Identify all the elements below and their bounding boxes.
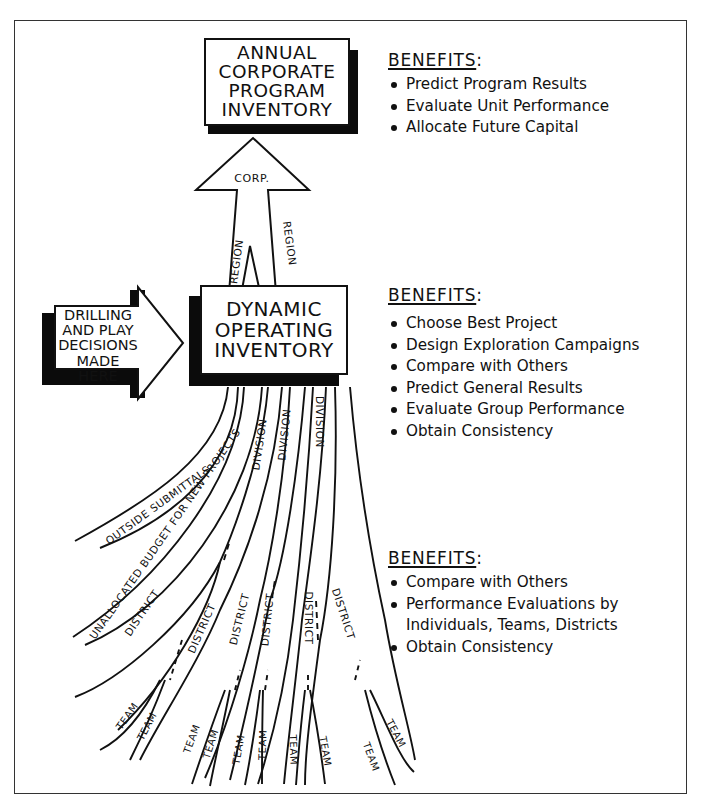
benefit-item: Allocate Future Capital — [388, 117, 609, 139]
team-label-1: TEAM — [113, 700, 140, 732]
top-box-line: INVENTORY — [222, 101, 333, 120]
input-arrow-line: DECISIONS — [56, 338, 140, 353]
benefit-item: Choose Best Project — [388, 313, 640, 335]
team-label-5: TEAM — [230, 734, 246, 767]
input-arrow-line: AND PLAY — [56, 323, 140, 338]
benefits-heading: BENEFITS: — [388, 50, 609, 70]
middle-box-line: DYNAMIC — [226, 299, 322, 319]
district-label-6: DISTRICT — [330, 587, 358, 641]
team-label-10: TEAM — [384, 717, 408, 750]
benefits-districts-teams: BENEFITS: Compare with Others Performanc… — [388, 548, 619, 658]
dynamic-operating-inventory-box: DYNAMIC OPERATING INVENTORY — [200, 285, 348, 375]
benefit-item: Obtain Consistency — [388, 421, 640, 443]
division-label-1: DIVISION — [249, 418, 268, 471]
input-arrow-line: DRILLING — [56, 308, 140, 323]
benefit-item: Obtain Consistency — [388, 637, 619, 659]
benefit-item: Evaluate Group Performance — [388, 399, 640, 421]
benefit-item: Compare with Others — [388, 572, 619, 594]
benefits-heading: BENEFITS: — [388, 548, 619, 568]
benefit-item: Predict General Results — [388, 378, 640, 400]
district-label-5: DISTRICT — [303, 591, 315, 644]
team-label-3: TEAM — [181, 723, 202, 756]
team-label-9: TEAM — [361, 740, 382, 773]
benefits-operating: BENEFITS: Choose Best Project Design Exp… — [388, 285, 640, 442]
benefit-item: Design Exploration Campaigns — [388, 335, 640, 357]
benefit-item: Performance Evaluations by — [388, 594, 619, 616]
team-label-7: TEAM — [287, 734, 299, 766]
region-label-right: REGION — [281, 220, 299, 266]
annual-corporate-program-inventory-box: ANNUAL CORPORATE PROGRAM INVENTORY — [204, 38, 350, 126]
middle-box-line: OPERATING — [215, 320, 334, 340]
division-label-3: DIVISION — [314, 396, 326, 448]
input-arrow-label: DRILLING AND PLAY DECISIONS MADE HERE — [56, 308, 140, 384]
input-arrow-line: MADE HERE — [56, 354, 140, 384]
district-label-4: DISTRICT — [258, 592, 275, 646]
corp-label: CORP. — [234, 172, 269, 185]
benefits-corporate: BENEFITS: Predict Program Results Evalua… — [388, 50, 609, 139]
division-label-2: DIVISION — [275, 408, 292, 461]
benefit-item: Predict Program Results — [388, 74, 609, 96]
benefit-item: Compare with Others — [388, 356, 640, 378]
benefits-heading: BENEFITS: — [388, 285, 640, 305]
benefit-item: Evaluate Unit Performance — [388, 96, 609, 118]
district-label-3: DISTRICT — [227, 592, 252, 647]
team-label-6: TEAM — [256, 730, 268, 762]
benefit-item-continuation: Individuals, Teams, Districts — [388, 615, 619, 637]
middle-box-line: INVENTORY — [214, 340, 333, 360]
